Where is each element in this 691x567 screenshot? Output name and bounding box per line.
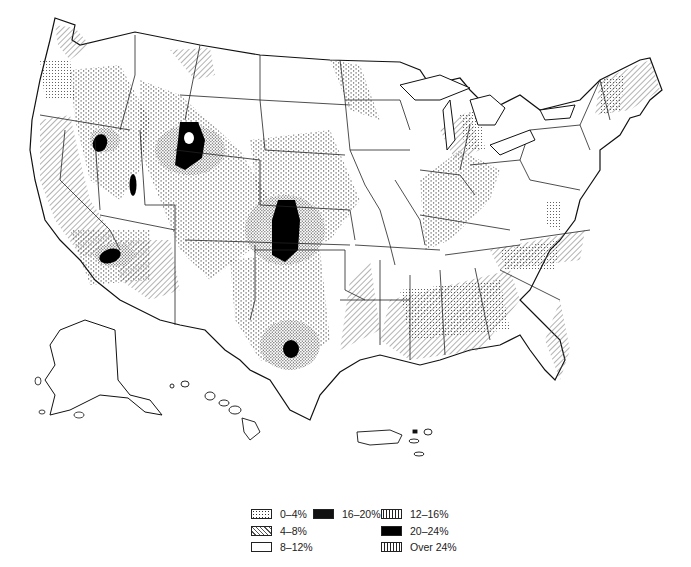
alaska — [35, 320, 162, 418]
hawaii — [170, 381, 260, 440]
white-hole — [184, 132, 194, 144]
us-thematic-map — [0, 0, 691, 567]
puerto-rico — [357, 429, 432, 456]
